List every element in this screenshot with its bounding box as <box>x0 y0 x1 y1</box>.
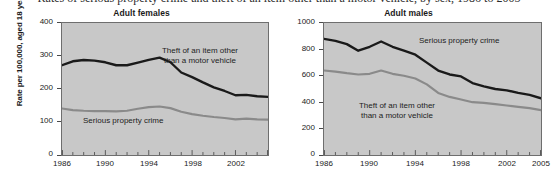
y-tick-label-800: 800 <box>285 44 315 54</box>
annotation-theft-females: Theft of an item other than a motor vehi… <box>140 46 260 66</box>
x-tick-marks-females <box>62 150 267 155</box>
x-tick-label-1986: 1986 <box>309 158 339 169</box>
chart-panel-adult-males: Adult males 1000 800 600 400 200 0 Serio… <box>282 0 558 183</box>
y-tick-label-200: 200 <box>27 83 53 93</box>
series-lines-adult-females <box>62 23 268 155</box>
chart-panel-adult-females: Adult females 400 300 200 100 0 Theft of… <box>24 0 274 183</box>
annotation-theft-males: Theft of an item other than a motor vehi… <box>338 101 456 121</box>
x-tick-label-2002: 2002 <box>221 158 251 169</box>
y-tick-label-200: 200 <box>285 123 315 133</box>
x-tick-label-1994: 1994 <box>400 158 430 169</box>
x-tick-label-1998: 1998 <box>178 158 208 169</box>
x-tick-label-1994: 1994 <box>134 158 164 169</box>
y-tick-label-400: 400 <box>27 17 53 27</box>
annotation-serious-property-crime-males: Serious property crime <box>419 36 499 46</box>
x-tick-label-2005: 2005 <box>526 158 556 169</box>
y-tick-label-300: 300 <box>27 50 53 60</box>
plot-area-adult-females: Theft of an item other than a motor vehi… <box>61 22 269 156</box>
x-tick-marks-males <box>324 150 540 155</box>
x-tick-label-1990: 1990 <box>354 158 384 169</box>
x-tick-label-1998: 1998 <box>446 158 476 169</box>
y-tick-label-600: 600 <box>285 70 315 80</box>
y-tick-label-100: 100 <box>27 116 53 126</box>
x-tick-label-1986: 1986 <box>47 158 77 169</box>
y-tick-label-400: 400 <box>285 97 315 107</box>
y-tick-label-1000: 1000 <box>285 17 315 27</box>
x-tick-label-2002: 2002 <box>492 158 522 169</box>
chart-title-adult-females: Adult females <box>34 8 249 18</box>
x-tick-label-1990: 1990 <box>90 158 120 169</box>
chart-title-adult-males: Adult males <box>296 8 521 18</box>
plot-area-adult-males: Serious property crime Theft of an item … <box>323 22 542 156</box>
annotation-serious-property-crime-females: Serious property crime <box>83 116 163 126</box>
